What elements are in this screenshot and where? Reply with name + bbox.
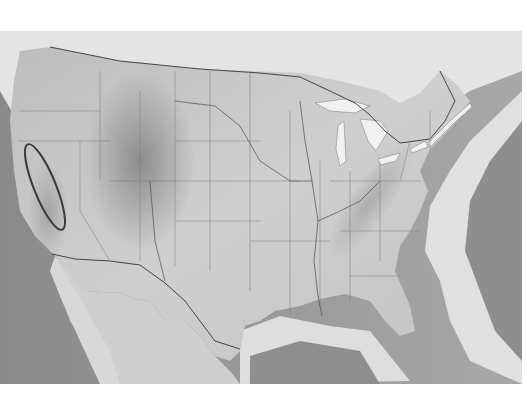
map-image xyxy=(0,31,522,384)
relief-map xyxy=(0,31,522,384)
sierra-relief xyxy=(28,161,68,261)
